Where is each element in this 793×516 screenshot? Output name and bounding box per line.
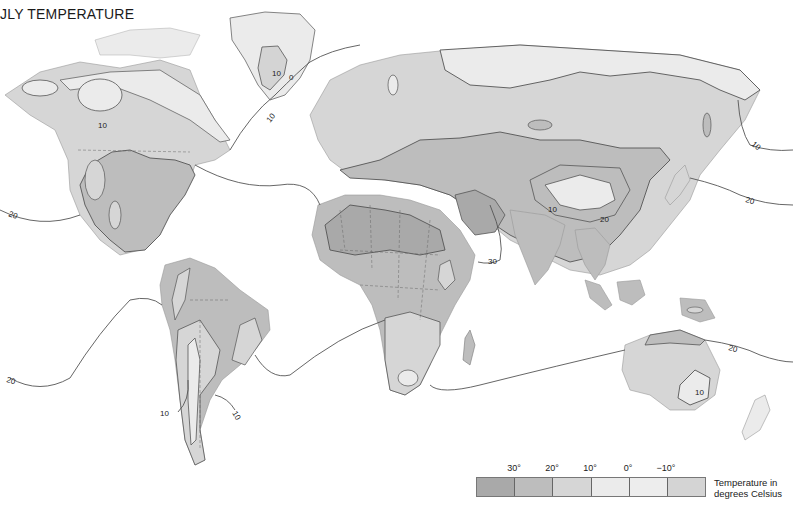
isotherm-indian-ocean-20 — [430, 350, 625, 390]
isotherm-atlantic-20 — [195, 165, 320, 205]
temperature-legend: 30° 20° 10° 0° −10° — [476, 463, 706, 497]
isotherm-label-atlantic-10: 10 — [265, 111, 278, 124]
isotherm-south-pacific-20 — [10, 298, 162, 386]
legend-caption-line1: Temperature in — [714, 477, 782, 488]
india-landmass — [510, 210, 565, 285]
sumatra-landmass — [585, 280, 612, 310]
isotherm-south-atlantic-20 — [255, 320, 385, 376]
kamchatka-pocket — [703, 113, 711, 137]
drakensberg-pocket — [398, 370, 418, 386]
isotherm-argentina-10 — [215, 395, 235, 410]
legend-tick-30: 30° — [507, 463, 521, 473]
legend-tick-10: 10° — [583, 463, 597, 473]
legend-tick-minus10: −10° — [657, 463, 676, 473]
legend-band-above-30 — [477, 478, 515, 496]
yukon-cool-pocket — [78, 79, 122, 111]
legend-band-20-30 — [515, 478, 553, 496]
legend-color-bar — [476, 477, 706, 497]
borneo-landmass — [617, 280, 645, 305]
legend-tick-0: 0° — [624, 463, 633, 473]
siberia-warm-pocket — [528, 120, 552, 130]
legend-caption: Temperature in degrees Celsius — [714, 477, 782, 499]
world-map: 10 0 10 20 10 10 20 10 20 — [0, 0, 793, 516]
alaska-cool-pocket — [22, 80, 58, 96]
isotherm-pacific-east-20 — [690, 178, 793, 205]
isotherm-label-arabia-30: 30 — [488, 257, 497, 266]
isotherm-label-tibet-10: 10 — [548, 205, 557, 214]
madagascar-landmass — [463, 330, 475, 365]
legend-tick-20: 20° — [545, 463, 559, 473]
scandinavia-pocket — [388, 75, 398, 95]
legend-ticks: 30° 20° 10° 0° −10° — [476, 463, 706, 477]
legend-band-minus10-0 — [630, 478, 668, 496]
rockies-pocket — [85, 160, 105, 200]
isotherm-label-argentina-10: 10 — [230, 410, 243, 423]
northern-australia-warm-zone — [645, 330, 705, 345]
new-zealand-landmass — [742, 395, 770, 440]
legend-band-below-minus10 — [668, 478, 705, 496]
mexico-highland-pocket — [109, 201, 121, 229]
legend-band-10-20 — [553, 478, 591, 496]
new-guinea-pocket — [687, 307, 703, 313]
legend-caption-line2: degrees Celsius — [714, 488, 782, 499]
legend-band-0-10 — [592, 478, 630, 496]
isotherm-label-canada-10: 10 — [98, 121, 107, 130]
isotherm-label-australia-10: 10 — [695, 388, 704, 397]
isotherm-pacific-south-20 — [705, 340, 793, 362]
isotherm-label-pacific-east-20: 20 — [744, 195, 755, 206]
isotherm-label-pacific-west-20: 20 — [7, 209, 19, 221]
isotherm-label-china-20: 20 — [600, 215, 609, 224]
isotherm-label-australia-20: 20 — [727, 343, 738, 354]
arctic-islands — [95, 28, 200, 58]
isotherm-label-andes-10: 10 — [160, 409, 169, 418]
isotherm-label-pacific-east-10: 10 — [750, 140, 763, 153]
isotherm-label-greenland-10: 10 — [272, 69, 281, 78]
isotherm-label-south-pacific-20: 20 — [5, 375, 16, 386]
